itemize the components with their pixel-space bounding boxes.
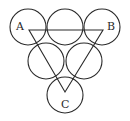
circles-triangle-diagram: A B C (0, 0, 130, 121)
label-c: C (61, 98, 69, 111)
circle-top-middle (47, 9, 83, 45)
circle-middle-left (28, 43, 64, 79)
label-a: A (15, 20, 25, 33)
label-b: B (107, 20, 115, 33)
diagram-canvas: A B C (0, 0, 130, 121)
